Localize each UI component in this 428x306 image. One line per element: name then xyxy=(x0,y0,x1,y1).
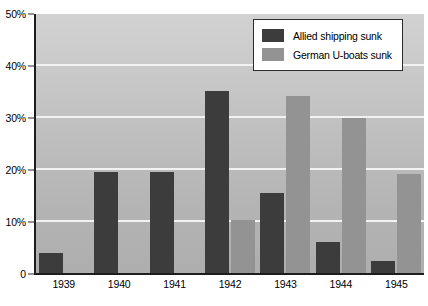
y-tick-label-40: 40% xyxy=(6,60,26,72)
bar-1944-allied xyxy=(316,242,340,274)
bar-group-1941 xyxy=(147,14,202,274)
bar-1941-allied xyxy=(150,172,174,274)
bar-1942-allied xyxy=(205,91,229,274)
x-tick-label-1940: 1940 xyxy=(108,278,131,290)
x-tick-label-1941: 1941 xyxy=(163,278,186,290)
x-axis: 1939194019411942194319441945 xyxy=(36,278,424,302)
bar-group-1942 xyxy=(202,14,257,274)
y-tick-label-20: 20% xyxy=(6,164,26,176)
legend-item-0: Allied shipping sunk xyxy=(262,26,392,45)
y-axis: 010%20%30%40%50% xyxy=(0,0,34,306)
y-tick-mark-20 xyxy=(28,170,34,171)
y-tick-label-10: 10% xyxy=(6,216,26,228)
bar-1939-allied xyxy=(39,253,63,274)
y-tick-mark-50 xyxy=(28,14,34,15)
y-tick-mark-30 xyxy=(28,118,34,119)
x-tick-label-1942: 1942 xyxy=(219,278,242,290)
bar-1942-uboat xyxy=(231,220,255,274)
legend-swatch-icon-0 xyxy=(262,29,284,42)
x-tick-label-1939: 1939 xyxy=(52,278,75,290)
bar-group-1940 xyxy=(91,14,146,274)
legend-label-0: Allied shipping sunk xyxy=(293,30,382,42)
legend-label-1: German U-boats sunk xyxy=(293,49,392,61)
chart-legend: Allied shipping sunkGerman U-boats sunk xyxy=(253,19,403,71)
x-tick-label-1945: 1945 xyxy=(385,278,408,290)
bar-1943-uboat xyxy=(286,96,310,274)
bar-1944-uboat xyxy=(342,118,366,274)
bar-1940-allied xyxy=(94,172,118,274)
x-tick-label-1944: 1944 xyxy=(330,278,353,290)
legend-item-1: German U-boats sunk xyxy=(262,45,392,64)
y-tick-label-30: 30% xyxy=(6,112,26,124)
x-axis-line xyxy=(34,273,424,275)
bar-1943-allied xyxy=(260,193,284,274)
bar-chart: 010%20%30%40%50% 19391940194119421943194… xyxy=(0,0,428,306)
x-tick-label-1943: 1943 xyxy=(274,278,297,290)
y-tick-mark-10 xyxy=(28,222,34,223)
y-tick-mark-40 xyxy=(28,66,34,67)
bar-1945-uboat xyxy=(397,174,421,274)
y-tick-mark-0 xyxy=(28,274,34,275)
bar-group-1939 xyxy=(36,14,91,274)
y-axis-line xyxy=(34,14,36,275)
y-tick-label-0: 0 xyxy=(20,268,26,280)
legend-swatch-icon-1 xyxy=(262,48,284,61)
y-tick-label-50: 50% xyxy=(6,8,26,20)
